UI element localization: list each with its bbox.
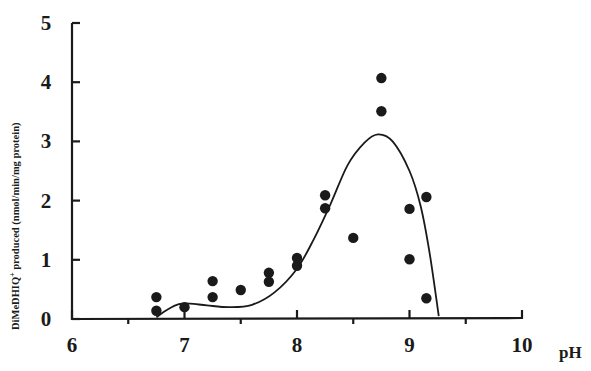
data-point — [151, 292, 161, 302]
x-tick-label: 10 — [512, 333, 533, 357]
data-point — [179, 302, 189, 312]
x-tick-label: 6 — [67, 333, 78, 357]
y-tick-label: 0 — [41, 307, 52, 331]
data-point — [207, 292, 217, 302]
y-tick-label: 1 — [41, 248, 52, 272]
axes — [71, 23, 522, 324]
data-point — [320, 190, 330, 200]
x-tick-labels: 678910 — [67, 333, 533, 357]
chart: 678910 012345 pH DiMeDHIQ+ produced (nmo… — [0, 0, 591, 371]
data-point — [348, 233, 358, 243]
y-tick-label: 5 — [41, 11, 52, 35]
data-point — [207, 276, 217, 286]
data-point — [264, 268, 274, 278]
data-point — [404, 204, 414, 214]
x-tick-label: 9 — [404, 333, 415, 357]
y-axis-title: DiMeDHIQ+ produced (nmol/min/mg protein) — [8, 122, 23, 330]
data-point — [264, 277, 274, 287]
data-point — [151, 306, 161, 316]
x-axis-title: pH — [559, 343, 582, 362]
data-point — [236, 285, 246, 295]
x-tick-label: 8 — [292, 333, 303, 357]
data-point — [320, 203, 330, 213]
y-tick-label: 4 — [41, 70, 52, 94]
x-tick-label: 7 — [179, 333, 190, 357]
data-point — [404, 254, 414, 264]
data-points — [151, 73, 431, 316]
data-point — [376, 106, 386, 116]
data-point — [421, 293, 431, 303]
y-axis-title-rest: produced (nmol/min/mg protein) — [10, 122, 22, 272]
y-tick-label: 3 — [41, 129, 52, 153]
data-point — [421, 192, 431, 202]
y-tick-labels: 012345 — [41, 11, 52, 331]
data-point — [376, 73, 386, 83]
y-axis-title-main: DiMeDHIQ — [10, 277, 21, 330]
y-tick-label: 2 — [41, 189, 52, 213]
data-point — [292, 261, 302, 271]
fitted-curve — [156, 134, 438, 317]
